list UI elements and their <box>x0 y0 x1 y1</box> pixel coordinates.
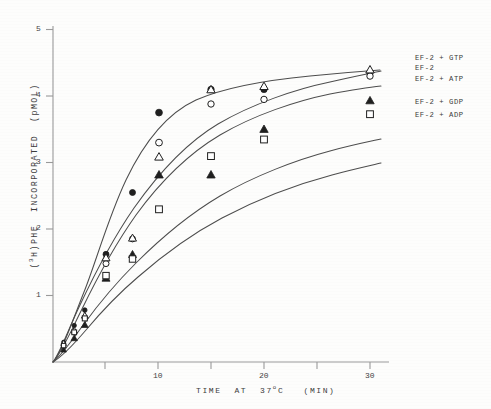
legend-item-ef2-gdp: EF-2 + GDP <box>415 96 464 109</box>
x-tick-label-30: 30 <box>365 371 375 380</box>
markers-ef2-adp <box>61 111 373 348</box>
markers-ef2-atp <box>61 66 374 346</box>
markers-ef2-gtp <box>62 70 374 345</box>
curve-ef2 <box>53 86 381 362</box>
x-tick-label-20: 20 <box>259 371 269 380</box>
y-axis-ticks <box>46 30 53 296</box>
figure-container: 5 4 3 2 1 10 20 30 (3H)PHE INCORPORATED … <box>0 0 491 409</box>
legend-group-top: EF-2 + GTP EF-2 EF-2 + ATP <box>415 53 464 84</box>
x-tick-label-10: 10 <box>153 371 163 380</box>
y-tick-label-1: 1 <box>36 290 41 299</box>
legend-item-ef2-atp: EF-2 + ATP <box>415 74 464 84</box>
curve-ef2-adp <box>53 163 381 362</box>
legend-item-ef2: EF-2 <box>415 63 464 73</box>
curve-ef2-atp <box>53 71 381 362</box>
axis-lines <box>53 26 389 362</box>
data-curves <box>53 70 381 362</box>
y-tick-label-5: 5 <box>36 24 41 33</box>
x-axis-ticks <box>105 362 370 369</box>
data-markers <box>61 66 374 353</box>
x-axis-label: TIME AT 37oC (MIN) <box>196 384 335 395</box>
legend-group-bottom: EF-2 + GDP EF-2 + ADP <box>415 96 464 122</box>
y-axis-label: (3H)PHE INCORPORATED (pMOL) <box>28 76 40 276</box>
curve-ef2-gtp <box>53 70 380 362</box>
legend-item-ef2-adp: EF-2 + ADP <box>415 109 464 122</box>
legend-item-ef2-gtp: EF-2 + GTP <box>415 53 464 63</box>
curve-ef2-gdp <box>53 139 381 362</box>
markers-ef2 <box>62 73 374 348</box>
